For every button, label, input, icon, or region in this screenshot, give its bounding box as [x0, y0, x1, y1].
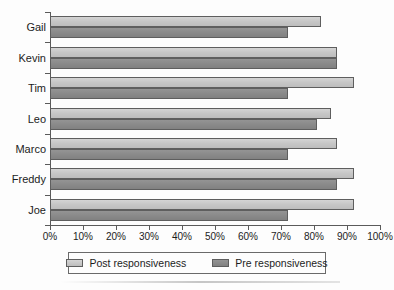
bar-kevin-post	[50, 47, 337, 58]
bar-gail-pre	[50, 27, 288, 38]
category-label-leo: Leo	[28, 113, 46, 125]
category-tick	[45, 42, 51, 43]
bar-tim-pre	[50, 88, 288, 99]
legend-label-post: Post responsiveness	[89, 257, 186, 269]
legend-entry-pre[interactable]: Pre responsiveness	[212, 257, 327, 269]
x-tick-label: 100%	[367, 231, 393, 243]
bar-leo-post	[50, 108, 331, 119]
x-tick-label: 60%	[238, 231, 258, 243]
x-tick-label: 20%	[106, 231, 126, 243]
chart-page: GailKevinTimLeoMarcoFreddyJoe 0%10%20%30…	[0, 0, 394, 290]
bar-marco-post	[50, 138, 337, 149]
bar-marco-pre	[50, 149, 288, 160]
x-tick-label: 10%	[73, 231, 93, 243]
x-tick	[248, 226, 249, 230]
x-tick	[83, 226, 84, 230]
scan-edge-artifact	[60, 281, 340, 283]
x-tick	[215, 226, 216, 230]
category-tick	[45, 195, 51, 196]
category-label-gail: Gail	[26, 21, 46, 33]
category-label-tim: Tim	[28, 82, 46, 94]
x-tick	[380, 226, 381, 230]
legend-label-pre: Pre responsiveness	[235, 257, 327, 269]
x-tick-label: 50%	[205, 231, 225, 243]
legend-swatch-pre-icon	[212, 259, 229, 267]
bar-leo-pre	[50, 119, 317, 130]
category-tick	[45, 164, 51, 165]
category-label-marco: Marco	[15, 143, 46, 155]
legend-entry-post[interactable]: Post responsiveness	[66, 257, 186, 269]
chart-legend: Post responsiveness Pre responsiveness	[68, 252, 326, 274]
category-label-joe: Joe	[28, 204, 46, 216]
x-tick	[281, 226, 282, 230]
category-tick	[45, 73, 51, 74]
bar-joe-pre	[50, 210, 288, 221]
x-tick-label: 0%	[43, 231, 57, 243]
x-tick-label: 80%	[304, 231, 324, 243]
x-tick	[347, 226, 348, 230]
bar-kevin-pre	[50, 58, 337, 69]
x-tick-label: 40%	[172, 231, 192, 243]
category-tick	[45, 134, 51, 135]
category-tick	[45, 103, 51, 104]
bar-freddy-post	[50, 168, 354, 179]
category-label-kevin: Kevin	[18, 52, 46, 64]
bar-tim-post	[50, 77, 354, 88]
bar-joe-post	[50, 199, 354, 210]
category-label-freddy: Freddy	[12, 173, 46, 185]
bar-gail-post	[50, 16, 321, 27]
x-tick	[182, 226, 183, 230]
x-tick-label: 90%	[337, 231, 357, 243]
x-tick	[314, 226, 315, 230]
legend-swatch-post-icon	[66, 259, 83, 267]
category-tick	[45, 12, 51, 13]
bar-freddy-pre	[50, 179, 337, 190]
x-tick-label: 30%	[139, 231, 159, 243]
x-tick	[116, 226, 117, 230]
x-tick-label: 70%	[271, 231, 291, 243]
x-tick	[149, 226, 150, 230]
x-tick	[50, 226, 51, 230]
